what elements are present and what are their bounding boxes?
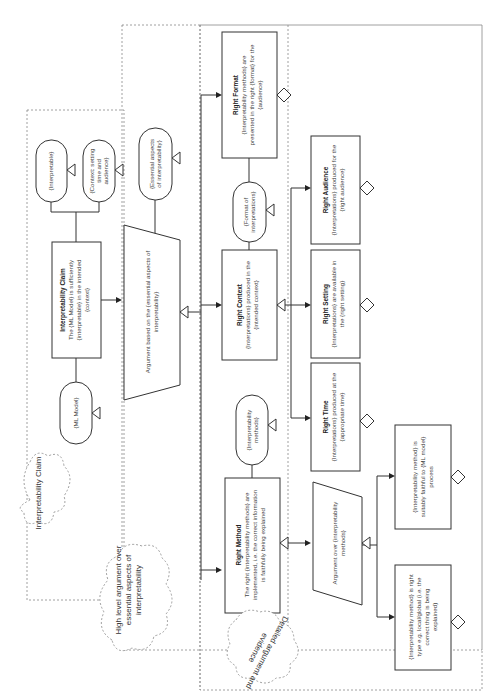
goal-right-audience[interactable]: Right Audience {Interpretations} produce… [311, 136, 374, 244]
context-marker-icon [172, 152, 180, 164]
svg-text:suitably faithful to {ML model: suitably faithful to {ML model} [419, 437, 426, 518]
svg-text:High level argument over: High level argument over [114, 545, 123, 634]
svg-text:{Interpretations} produced at: {Interpretations} produced at the [330, 372, 337, 461]
svg-text:{Interpretability: {Interpretability [245, 409, 252, 451]
context-marker-icon [67, 164, 75, 176]
svg-text:Right Method: Right Method [235, 524, 243, 565]
svg-text:Argument based on the {essenti: Argument based on the {essential aspects… [144, 250, 151, 373]
context-setting-time-audience[interactable]: {Context: setting time and audience} [83, 140, 123, 202]
undeveloped-diamond-icon [451, 470, 465, 484]
svg-text:explained): explained) [431, 603, 438, 632]
goal-right-format[interactable]: Right Format {Interpretability methods} … [222, 32, 291, 158]
svg-text:{Interpretability method} is: {Interpretability method} is [411, 441, 418, 513]
context-marker-icon [115, 164, 123, 176]
context-marker-icon [266, 204, 274, 216]
svg-text:{right audience}: {right audience} [338, 168, 345, 211]
svg-text:{audience}: {audience} [256, 80, 263, 109]
cloud-high-level-argument: High level argument over essential aspec… [100, 544, 172, 650]
context-interpretable[interactable]: {Interpretable} [36, 140, 75, 202]
svg-text:{Interpretable}: {Interpretable} [47, 152, 54, 191]
undeveloped-diamond-icon [360, 298, 374, 312]
svg-text:methods}: methods} [252, 417, 259, 443]
svg-text:Interpretability Claim: Interpretability Claim [34, 456, 43, 529]
undeveloped-diamond-icon [360, 181, 374, 195]
svg-text:{interpretable} in the intende: {interpretable} in the intended [75, 259, 82, 340]
goal-right-context[interactable]: Right Context {Interpretations} produced… [222, 250, 285, 360]
svg-text:The right {interpretability me: The right {interpretability methods} are [243, 492, 250, 597]
svg-text:is faithfully being explained: is faithfully being explained [259, 507, 266, 582]
context-marker-icon [268, 419, 276, 431]
svg-text:{appropriate time}: {appropriate time} [338, 393, 345, 442]
svg-text:Right Setting: Right Setting [322, 284, 330, 324]
context-marker-icon [92, 407, 100, 419]
svg-text:The {ML Model} is sufficiently: The {ML Model} is sufficiently [67, 259, 74, 340]
goal-right-setting[interactable]: Right Setting {Interpretations} are avai… [311, 250, 374, 358]
undeveloped-diamond-icon [451, 615, 465, 629]
svg-text:methods}: methods} [339, 530, 346, 556]
strategy-essential-aspects[interactable]: Argument based on the {essential aspects… [124, 225, 188, 400]
svg-text:implemented, i.e. the correct: implemented, i.e. the correct informatio… [251, 489, 258, 600]
node-interpretability-claim[interactable]: Interpretability Claim The {ML Model} is… [52, 242, 101, 358]
claim-title: Interpretability Claim [59, 268, 67, 332]
context-interpretability-methods[interactable]: {Interpretability methods} [236, 395, 276, 465]
strategy-interpretability-methods[interactable]: Argument over {interpretability methods} [313, 482, 370, 605]
goal-right-type[interactable]: {Interpretability method} is right type … [395, 565, 465, 670]
svg-text:process: process [427, 466, 434, 488]
svg-text:essential aspects of: essential aspects of [124, 554, 133, 625]
svg-text:{Interpretations} produced for: {Interpretations} produced for the [330, 144, 337, 235]
cloud-detailed-argument: Detailed argument and evidence [227, 610, 298, 690]
svg-text:correct thing is being: correct thing is being [423, 588, 430, 646]
strategy-marker-icon [280, 537, 288, 549]
svg-text:{Interpretations} produced in: {Interpretations} produced in the [244, 260, 251, 349]
svg-text:audience}: audience} [102, 157, 109, 184]
svg-text:{context}: {context} [83, 288, 90, 312]
context-ml-model[interactable]: {ML Model} [60, 382, 100, 444]
svg-text:Right Time: Right Time [322, 400, 330, 433]
svg-text:interpretability: interpretability [134, 565, 143, 615]
svg-text:{Interpretability methods} are: {Interpretability methods} are [240, 55, 247, 135]
svg-text:time and: time and [95, 159, 102, 183]
svg-text:the {right setting}: the {right setting} [338, 281, 345, 327]
goal-right-time[interactable]: Right Time {Interpretations} produced at… [311, 363, 374, 471]
svg-text:Right Audience: Right Audience [322, 166, 330, 213]
strategy-marker-icon [277, 299, 285, 311]
strategy-marker-icon [180, 306, 188, 318]
svg-text:{Interpretations} are availabl: {Interpretations} are available in [330, 260, 337, 348]
context-essential-aspects[interactable]: {Essential aspects of interpretability} [139, 128, 180, 200]
gsn-diagram: Interpretability Claim The {ML Model} is… [0, 0, 491, 694]
svg-text:Right Format: Right Format [232, 74, 240, 115]
svg-text:interpretations}: interpretations} [249, 191, 256, 232]
svg-text:Argument over {interpretabilit: Argument over {interpretability [331, 501, 338, 585]
svg-text:of interpretability}: of interpretability} [155, 140, 162, 187]
svg-text:{Format of: {Format of [242, 197, 249, 226]
svg-text:interpretability}: interpretability} [152, 292, 159, 333]
svg-text:Right Context: Right Context [236, 283, 244, 326]
goal-faithful-to-model[interactable]: {Interpretability method} is suitably fa… [395, 425, 465, 529]
strategy-marker-icon [362, 537, 370, 549]
svg-text:{Essential aspects: {Essential aspects [148, 139, 155, 189]
undeveloped-diamond-icon [277, 88, 291, 102]
cloud-interpretability-claim: Interpretability Claim [20, 453, 70, 529]
goal-right-method[interactable]: Right Method The right {interpretability… [225, 478, 288, 613]
svg-text:{Context: setting: {Context: setting [88, 148, 95, 194]
svg-text:{intended context}: {intended context} [252, 280, 259, 330]
undeveloped-diamond-icon [360, 414, 374, 428]
svg-text:presented in the right {format: presented in the right {format} for the [248, 44, 255, 145]
svg-text:type e.g. local/global (i.e. t: type e.g. local/global (i.e. the [415, 577, 422, 656]
svg-text:{ML Model}: {ML Model} [72, 397, 79, 428]
svg-text:{Interpretability method} is r: {Interpretability method} is right [407, 574, 414, 660]
context-format-of-interpretations[interactable]: {Format of interpretations} [233, 182, 274, 242]
